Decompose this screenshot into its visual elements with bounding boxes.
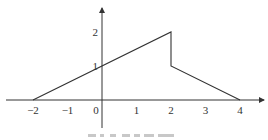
x-tick-label: −1 xyxy=(62,104,74,116)
x-tick-label: −2 xyxy=(27,104,39,116)
series-line xyxy=(33,32,240,100)
x-tick-label: 3 xyxy=(203,104,209,116)
plot-series xyxy=(33,32,240,100)
x-tick-label: 1 xyxy=(134,104,140,116)
figure-caption xyxy=(88,134,176,138)
x-tick-label: 4 xyxy=(237,104,243,116)
x-tick-label: 0 xyxy=(93,104,99,116)
function-graph: −2−10123412 xyxy=(0,0,268,140)
tick-labels: −2−10123412 xyxy=(27,26,243,116)
y-tick-label: 2 xyxy=(93,26,99,38)
x-tick-label: 2 xyxy=(168,104,174,116)
y-tick-label: 1 xyxy=(93,60,99,72)
